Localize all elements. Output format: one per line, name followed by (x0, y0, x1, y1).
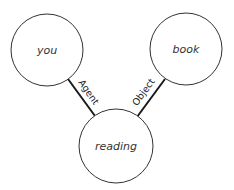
node-book: book (150, 13, 222, 85)
edge-label-object: Object (130, 76, 157, 108)
node-reading: reading (79, 109, 153, 183)
semantic-network-diagram: Agent Object you book reading (0, 0, 234, 190)
node-label-reading: reading (95, 140, 137, 153)
node-you: you (11, 14, 83, 86)
node-label-you: you (36, 44, 57, 57)
edge-label-agent: Agent (76, 77, 101, 107)
node-label-book: book (173, 43, 200, 56)
